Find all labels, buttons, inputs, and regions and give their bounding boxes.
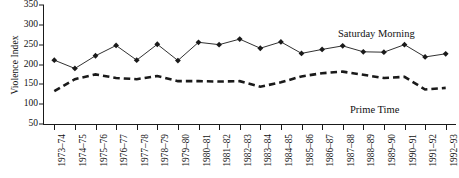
- data-point-marker: [237, 36, 243, 42]
- series-label-prime-time: Prime Time: [350, 104, 399, 115]
- x-tick-mark-1: [75, 125, 76, 130]
- y-axis-tick-labels: 35030025020015010050: [6, 0, 38, 178]
- data-point-marker: [443, 51, 449, 57]
- x-tick-mark-15: [363, 125, 364, 130]
- x-tick-label-15: 1988–89: [367, 131, 376, 164]
- data-point-marker: [72, 66, 78, 72]
- x-tick-label-11: 1984–85: [285, 131, 294, 164]
- data-point-marker: [93, 53, 99, 59]
- y-tick-mark-300: [39, 24, 44, 25]
- y-tick-mark-50: [39, 124, 44, 125]
- y-tick-150: 150: [10, 80, 38, 90]
- x-tick-mark-19: [446, 125, 447, 130]
- x-tick-mark-13: [322, 125, 323, 130]
- x-tick-mark-10: [260, 125, 261, 130]
- data-point-marker: [278, 39, 284, 45]
- x-tick-label-6: 1979–80: [182, 131, 191, 164]
- x-tick-label-7: 1980–81: [203, 131, 212, 164]
- y-tick-mark-350: [39, 5, 44, 6]
- data-point-marker: [51, 57, 57, 63]
- data-point-marker: [216, 42, 222, 48]
- y-tick-mark-100: [39, 104, 44, 105]
- x-tick-label-16: 1989–90: [388, 131, 397, 164]
- data-point-marker: [402, 42, 408, 48]
- x-tick-label-8: 1981–82: [223, 131, 232, 164]
- y-tick-350: 350: [10, 0, 38, 10]
- x-tick-label-14: 1987–88: [347, 131, 356, 164]
- series-label-saturday-morning: Saturday Morning: [338, 28, 415, 39]
- x-tick-mark-11: [281, 125, 282, 130]
- y-tick-250: 250: [10, 40, 38, 50]
- x-tick-label-18: 1991–92: [429, 131, 438, 164]
- x-tick-label-19: 1992–93: [450, 131, 459, 164]
- x-tick-label-17: 1990–91: [409, 131, 418, 164]
- data-point-marker: [113, 43, 119, 49]
- x-tick-mark-17: [405, 125, 406, 130]
- violence-index-line-chart: Violence Index 35030025020015010050 1973…: [0, 0, 459, 178]
- x-tick-mark-16: [384, 125, 385, 130]
- x-tick-label-9: 1982–83: [244, 131, 253, 164]
- y-tick-mark-250: [39, 44, 44, 45]
- x-tick-label-10: 1983–84: [264, 131, 273, 164]
- x-tick-label-12: 1985–86: [306, 131, 315, 164]
- series-line-prime-time: [54, 72, 445, 91]
- x-tick-label-1: 1974–75: [79, 131, 88, 164]
- data-point-marker: [340, 43, 346, 49]
- y-tick-50: 50: [10, 119, 38, 129]
- x-tick-mark-8: [219, 125, 220, 130]
- y-tick-200: 200: [10, 60, 38, 70]
- x-tick-mark-9: [240, 125, 241, 130]
- x-tick-mark-3: [116, 125, 117, 130]
- x-tick-label-4: 1977–78: [141, 131, 150, 164]
- y-tick-100: 100: [10, 99, 38, 109]
- data-point-marker: [422, 54, 428, 60]
- x-tick-mark-5: [157, 125, 158, 130]
- x-tick-label-0: 1973–74: [58, 131, 67, 164]
- series-line-saturday-morning: [54, 39, 445, 68]
- x-tick-label-2: 1975–76: [100, 131, 109, 164]
- x-tick-label-3: 1976–77: [120, 131, 129, 164]
- data-point-marker: [360, 49, 366, 55]
- y-tick-300: 300: [10, 20, 38, 30]
- y-tick-mark-200: [39, 64, 44, 65]
- data-point-marker: [319, 47, 325, 53]
- x-tick-mark-0: [54, 125, 55, 130]
- data-point-marker: [381, 49, 387, 55]
- x-tick-mark-14: [343, 125, 344, 130]
- x-tick-mark-18: [425, 125, 426, 130]
- x-tick-mark-7: [199, 125, 200, 130]
- x-tick-mark-4: [137, 125, 138, 130]
- x-tick-label-5: 1978–79: [161, 131, 170, 164]
- data-point-marker: [299, 50, 305, 56]
- x-tick-mark-12: [302, 125, 303, 130]
- data-point-marker: [257, 45, 263, 51]
- x-tick-mark-2: [96, 125, 97, 130]
- x-tick-mark-6: [178, 125, 179, 130]
- x-tick-label-13: 1986–87: [326, 131, 335, 164]
- y-tick-mark-150: [39, 84, 44, 85]
